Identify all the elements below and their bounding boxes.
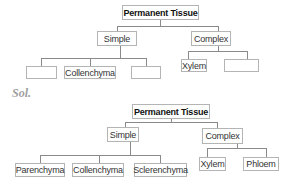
- root-node: Permanent Tissue: [122, 5, 199, 20]
- connector: [146, 58, 147, 66]
- solution-label: Sol.: [12, 86, 31, 101]
- sclerenchyma-node: Sclerenchyma: [134, 163, 187, 177]
- simple-node: Simple: [97, 31, 137, 46]
- connector: [130, 141, 131, 155]
- connector: [90, 58, 91, 66]
- connector: [207, 148, 267, 149]
- connector: [41, 58, 147, 59]
- connector: [266, 148, 267, 157]
- phloem-node: Phloem: [243, 157, 279, 171]
- simple-node: Simple: [107, 127, 139, 142]
- connector: [40, 155, 41, 163]
- blank-answer-box[interactable]: [131, 66, 161, 79]
- connector: [188, 51, 189, 59]
- blank-answer-box[interactable]: [224, 59, 259, 72]
- connector: [188, 51, 248, 52]
- xylem-node: Xylem: [199, 157, 226, 171]
- blank-answer-box[interactable]: [26, 66, 57, 79]
- connector: [247, 51, 248, 59]
- parenchyma-node: Parenchyma: [15, 163, 65, 177]
- complex-node: Complex: [202, 128, 243, 144]
- collenchyma-node: Collenchyma: [72, 163, 124, 177]
- connector: [117, 26, 219, 27]
- collenchyma-node: Collenchyma: [64, 66, 116, 79]
- connector: [160, 155, 161, 163]
- connector: [41, 58, 42, 66]
- root-node: Permanent Tissue: [132, 104, 210, 119]
- connector: [207, 148, 208, 157]
- connector: [40, 155, 161, 156]
- connector: [99, 155, 100, 163]
- connector: [120, 45, 121, 58]
- connector: [125, 122, 218, 123]
- complex-node: Complex: [191, 31, 231, 46]
- xylem-node: Xylem: [181, 59, 207, 72]
